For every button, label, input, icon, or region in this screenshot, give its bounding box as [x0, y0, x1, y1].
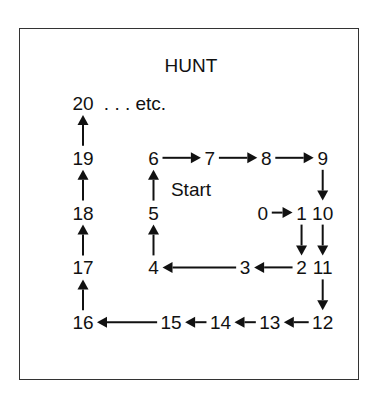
node-4: 4 — [148, 258, 159, 277]
node-17: 17 — [72, 258, 93, 277]
node-7: 7 — [205, 148, 216, 167]
arrow-8-to-9 — [275, 152, 313, 163]
arrow-13-to-14 — [234, 317, 255, 328]
node-19: 19 — [72, 148, 93, 167]
node-10: 10 — [312, 203, 333, 222]
node-2: 2 — [296, 258, 307, 277]
arrow-6-to-7 — [163, 152, 201, 163]
node-12: 12 — [312, 313, 333, 332]
node-16: 16 — [72, 313, 93, 332]
node-15: 15 — [161, 313, 182, 332]
arrow-2-to-3 — [254, 262, 292, 273]
arrow-4-to-5 — [148, 225, 159, 256]
arrow-17-to-18 — [78, 225, 89, 256]
arrow-9-to-10 — [317, 170, 328, 201]
node-18: 18 — [72, 203, 93, 222]
arrow-1-to-2 — [296, 225, 307, 256]
node-1: 1 — [296, 203, 307, 222]
arrow-3-to-4 — [163, 262, 237, 273]
arrow-14-to-15 — [185, 317, 206, 328]
arrow-12-to-13 — [284, 317, 309, 328]
node-11: 11 — [313, 258, 333, 277]
continuation-label: . . . etc. — [104, 94, 166, 113]
node-9: 9 — [317, 148, 328, 167]
node-3: 3 — [240, 258, 251, 277]
arrow-7-to-8 — [219, 152, 257, 163]
node-6: 6 — [148, 148, 159, 167]
arrow-11-to-12 — [317, 279, 328, 310]
arrow-19-to-20 — [78, 115, 89, 146]
arrow-10-to-11 — [317, 225, 328, 256]
arrows-layer — [0, 0, 375, 400]
node-13: 13 — [259, 313, 280, 332]
arrow-15-to-16 — [97, 317, 157, 328]
arrow-16-to-17 — [78, 279, 89, 310]
arrow-5-to-6 — [148, 170, 159, 201]
start-label: Start — [171, 180, 211, 199]
node-5: 5 — [148, 203, 159, 222]
arrow-0-to-1 — [272, 207, 293, 218]
node-8: 8 — [261, 148, 272, 167]
node-0: 0 — [257, 203, 268, 222]
node-20: 20 — [72, 94, 93, 113]
arrow-18-to-19 — [78, 170, 89, 201]
node-14: 14 — [210, 313, 231, 332]
